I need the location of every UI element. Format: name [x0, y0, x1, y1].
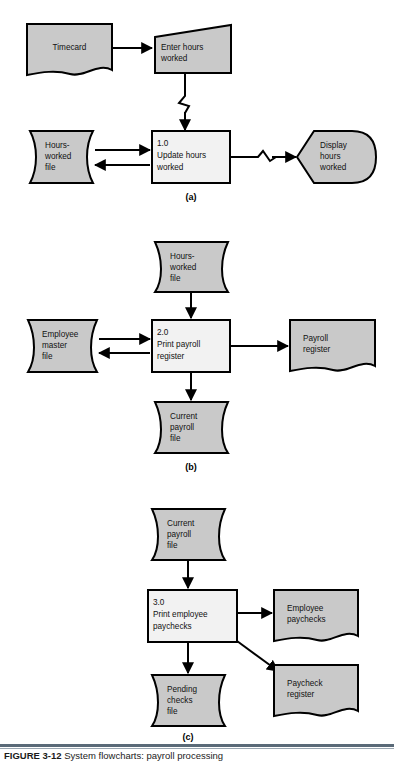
process-2-line2: Print payroll — [157, 340, 200, 349]
employee-master-line1: Employee — [42, 330, 79, 339]
process-3-line3: paychecks — [153, 622, 192, 631]
pending-checks-line3: file — [167, 707, 178, 716]
process-1-line1: 1.0 — [157, 139, 169, 148]
hours-worked-file-a-line3: file — [45, 163, 56, 172]
panel-a: Timecard Enter hours worked Hours- worke… — [27, 24, 376, 202]
process-3-line2: Print employee — [153, 610, 208, 619]
node-enter-hours-worked: Enter hours worked — [155, 25, 231, 73]
figure-caption-text: System flowcharts: payroll processing — [64, 750, 223, 761]
process-1-line2: Update hours — [157, 151, 206, 160]
employee-master-line2: master — [42, 341, 67, 350]
panel-b: Hours- worked file Employee master file … — [28, 242, 375, 472]
panel-a-label: (a) — [186, 192, 197, 202]
payroll-register-line1: Payroll — [303, 334, 328, 343]
display-hours-line1: Display — [320, 141, 348, 150]
display-hours-line2: hours — [320, 152, 340, 161]
current-payroll-b-line2: payroll — [170, 423, 194, 432]
paycheck-register-line1: Paycheck — [287, 679, 323, 688]
hours-worked-file-b-line1: Hours- — [170, 252, 195, 261]
hours-worked-file-a-line1: Hours- — [45, 141, 70, 150]
timecard-label: Timecard — [53, 43, 87, 52]
process-3-line1: 3.0 — [153, 598, 165, 607]
employee-master-line3: file — [42, 352, 53, 361]
current-payroll-b-line1: Current — [170, 412, 198, 421]
pending-checks-line2: checks — [167, 696, 192, 705]
current-payroll-c-line1: Current — [167, 519, 195, 528]
figure-caption-label: FIGURE 3-12 — [4, 750, 62, 761]
employee-paychecks-line2: paychecks — [287, 615, 326, 624]
node-process-2: 2.0 Print payroll register — [152, 320, 230, 372]
current-payroll-b-line3: file — [170, 434, 181, 443]
paycheck-register-line2: register — [287, 690, 315, 699]
pending-checks-line1: Pending — [167, 685, 197, 694]
employee-paychecks-line1: Employee — [287, 604, 324, 613]
node-current-payroll-file-b: Current payroll file — [155, 402, 228, 453]
process-1-line3: worked — [156, 163, 184, 172]
node-process-1: 1.0 Update hours worked — [152, 131, 230, 183]
caption-divider — [0, 744, 394, 747]
node-paycheck-register: Paycheck register — [274, 665, 358, 716]
system-flowchart-svg: Timecard Enter hours worked Hours- worke… — [0, 0, 394, 761]
current-payroll-c-line2: payroll — [167, 530, 191, 539]
node-employee-paychecks: Employee paychecks — [274, 590, 358, 641]
caption-divider-thin — [0, 748, 394, 749]
current-payroll-c-line3: file — [167, 541, 178, 550]
hours-worked-file-b-line3: file — [170, 274, 181, 283]
payroll-register-line2: register — [303, 345, 331, 354]
node-current-payroll-file-c: Current payroll file — [152, 509, 225, 560]
comm-link-enter-to-process1 — [179, 74, 189, 130]
display-hours-line3: worked — [319, 163, 347, 172]
node-pending-checks-file: Pending checks file — [152, 675, 225, 726]
arrow-process3-to-paycheck-register — [237, 641, 278, 671]
node-hours-worked-file-a: Hours- worked file — [30, 131, 93, 183]
node-timecard: Timecard — [27, 24, 112, 75]
figure-root: Timecard Enter hours worked Hours- worke… — [0, 0, 394, 761]
node-payroll-register: Payroll register — [290, 320, 375, 371]
node-hours-worked-file-b: Hours- worked file — [155, 242, 228, 292]
panel-c-label: (c) — [183, 732, 194, 742]
node-process-3: 3.0 Print employee paychecks — [148, 590, 237, 642]
panel-c: Current payroll file 3.0 Print employee … — [148, 509, 358, 742]
process-2-line3: register — [157, 352, 185, 361]
node-display-hours-worked: Display hours worked — [297, 131, 376, 183]
hours-worked-file-a-line2: worked — [44, 152, 72, 161]
enter-hours-line1: Enter hours — [161, 43, 203, 52]
comm-link-process1-to-display — [231, 151, 296, 161]
enter-hours-line2: worked — [160, 54, 188, 63]
node-employee-master-file: Employee master file — [28, 320, 97, 372]
panel-b-label: (b) — [185, 462, 197, 472]
hours-worked-file-b-line2: worked — [169, 263, 197, 272]
figure-caption: FIGURE 3-12 System flowcharts: payroll p… — [4, 750, 390, 761]
process-2-line1: 2.0 — [157, 328, 169, 337]
